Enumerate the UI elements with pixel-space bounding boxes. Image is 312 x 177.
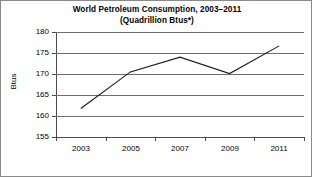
y-tick-label-175: 175 bbox=[3, 49, 49, 57]
x-tick-mark-0 bbox=[56, 137, 57, 141]
x-tick-label-2003: 2003 bbox=[61, 144, 101, 153]
x-tick-mark-3 bbox=[205, 137, 206, 141]
gridline-160 bbox=[56, 116, 304, 117]
gridline-175 bbox=[56, 53, 304, 54]
chart-figure: World Petroleum Consumption, 2003–2011 (… bbox=[0, 0, 312, 177]
x-tick-mark-2 bbox=[155, 137, 156, 141]
plot-area bbox=[56, 32, 304, 137]
y-axis-title: Btus bbox=[9, 62, 18, 102]
x-axis-baseline bbox=[56, 137, 304, 138]
x-tick-mark-4 bbox=[254, 137, 255, 141]
x-tick-label-2011: 2011 bbox=[259, 144, 299, 153]
y-tick-label-160: 160 bbox=[3, 112, 49, 120]
gridline-165 bbox=[56, 95, 304, 96]
x-tick-mark-5 bbox=[304, 137, 305, 141]
y-tick-label-155: 155 bbox=[3, 133, 49, 141]
gridline-180 bbox=[56, 32, 304, 33]
x-tick-label-2007: 2007 bbox=[160, 144, 200, 153]
x-tick-label-2009: 2009 bbox=[210, 144, 250, 153]
x-tick-label-2005: 2005 bbox=[111, 144, 151, 153]
x-tick-mark-1 bbox=[106, 137, 107, 141]
y-tick-label-180: 180 bbox=[3, 28, 49, 36]
gridline-170 bbox=[56, 74, 304, 75]
